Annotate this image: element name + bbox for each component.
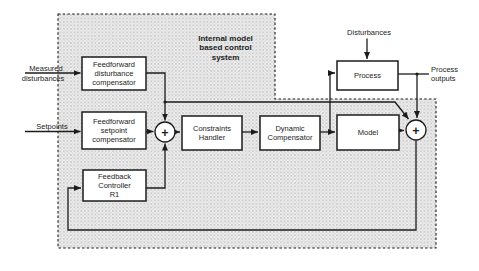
measured-disturbances-label-line1: Measured [29, 64, 62, 73]
measured-disturbances-label-line2: disturbances [22, 74, 65, 83]
left-sum-plus-sign: + [161, 126, 168, 140]
ffsc-label-line3: compensator [92, 135, 136, 144]
control-diagram: Internal model based control system Feed… [0, 0, 479, 271]
junction-control-signal-branch [328, 130, 331, 133]
junction-process-output-branch [415, 72, 418, 75]
process-outputs-label-line2: outputs [431, 74, 456, 83]
feedback-controller-label-line2: Controller [98, 181, 131, 190]
constraints-handler-label-line1: Constraints [193, 124, 231, 133]
constraints-handler-label-line2: Handler [199, 133, 226, 142]
setpoints-label: Setpoints [36, 122, 68, 131]
diagram-canvas: Internal model based control system Feed… [0, 0, 479, 271]
process-outputs-label-line1: Process [431, 65, 458, 74]
dynamic-compensator-label-line1: Dynamic [275, 124, 304, 133]
system-title-line2: based control [199, 43, 251, 52]
ffdc-label-line3: compensator [92, 78, 136, 87]
system-title-line3: system [212, 53, 240, 62]
ffdc-label-line1: Feedforward [93, 60, 135, 69]
disturbances-label: Disturbances [347, 28, 391, 37]
ffdc-label-line2: disturbance [95, 69, 134, 78]
model-label: Model [358, 128, 379, 137]
feedback-controller-label-line1: Feedback [98, 172, 131, 181]
feedback-controller-label-line3: R1 [110, 190, 120, 199]
ffsc-label-line2: setpoint [101, 126, 128, 135]
ffsc-label-line1: Feedforward [93, 117, 135, 126]
process-label: Process [354, 71, 381, 80]
dynamic-compensator-label-line2: Compensator [267, 133, 313, 142]
system-title-line1: Internal model [198, 34, 253, 43]
right-sum-plus-sign: + [412, 124, 419, 138]
junction-ffdc-branch [163, 100, 166, 103]
